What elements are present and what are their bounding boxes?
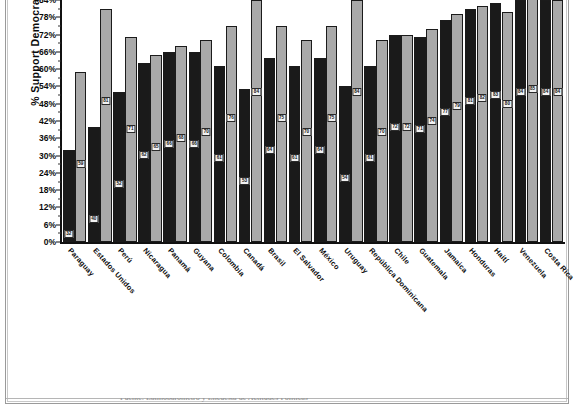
bar-value-label: 32 bbox=[64, 230, 73, 238]
y-minor-tick-mark bbox=[58, 198, 61, 199]
bar-light[interactable] bbox=[100, 9, 112, 242]
bar-group: 5271 bbox=[112, 0, 137, 242]
y-tick-label: 84% bbox=[39, 0, 56, 5]
bar-light[interactable] bbox=[75, 72, 87, 242]
bar-value-label: 84 bbox=[352, 88, 361, 96]
bar-value-label: 84 bbox=[541, 88, 550, 96]
bar-light[interactable] bbox=[276, 26, 288, 242]
bar-light[interactable] bbox=[301, 40, 313, 242]
y-tick-mark bbox=[56, 242, 61, 243]
x-category-label: Costa Rica bbox=[543, 246, 574, 282]
bar-dark[interactable] bbox=[63, 150, 75, 242]
bar-dark[interactable] bbox=[88, 127, 100, 242]
bar-light[interactable] bbox=[125, 37, 137, 242]
bar-value-label: 84 bbox=[516, 88, 525, 96]
bar-light[interactable] bbox=[502, 12, 514, 242]
bar-value-label: 72 bbox=[391, 123, 400, 131]
x-category-label: Uruguay bbox=[342, 246, 370, 275]
y-tick-label: 24% bbox=[39, 168, 56, 178]
bar-value-label: 52 bbox=[114, 180, 123, 188]
bar-value-label: 61 bbox=[290, 154, 299, 162]
y-tick-mark bbox=[56, 86, 61, 87]
bar-group: 3259 bbox=[62, 0, 87, 242]
bar-group: 6668 bbox=[162, 0, 187, 242]
bar-dark[interactable] bbox=[339, 86, 351, 242]
bar-light[interactable] bbox=[351, 0, 363, 242]
bar-value-label: 70 bbox=[377, 128, 386, 136]
y-minor-tick-mark bbox=[58, 25, 61, 26]
bar-value-label: 85 bbox=[528, 85, 537, 93]
bar-light[interactable] bbox=[451, 14, 463, 242]
y-minor-tick-mark bbox=[58, 60, 61, 61]
bar-dark[interactable] bbox=[440, 20, 452, 242]
y-tick-mark bbox=[56, 155, 61, 156]
y-tick-label: 12% bbox=[39, 202, 56, 212]
bar-light[interactable] bbox=[477, 6, 489, 242]
caption-text: Fuente: Latinobarómetro y Encuesta de Ac… bbox=[120, 398, 308, 402]
bar-group: 8485 bbox=[514, 0, 539, 242]
bar-value-label: 84 bbox=[553, 88, 562, 96]
bar-light[interactable] bbox=[527, 0, 539, 242]
bar-value-label: 66 bbox=[190, 140, 199, 148]
y-tick-label: 42% bbox=[39, 116, 56, 126]
y-tick-label: 66% bbox=[39, 47, 56, 57]
y-tick-mark bbox=[56, 190, 61, 191]
bar-group: 8380 bbox=[489, 0, 514, 242]
y-tick-label: 18% bbox=[39, 185, 56, 195]
y-tick-mark bbox=[56, 138, 61, 139]
bar-dark[interactable] bbox=[490, 3, 502, 242]
bar-chart: % Support Democracy 0%6%12%18%24%30%36%4… bbox=[0, 0, 574, 300]
bar-value-label: 62 bbox=[140, 151, 149, 159]
bar-light[interactable] bbox=[552, 0, 564, 242]
bar-value-label: 84 bbox=[252, 88, 261, 96]
bar-group: 6265 bbox=[137, 0, 162, 242]
y-minor-tick-mark bbox=[58, 146, 61, 147]
bar-light[interactable] bbox=[426, 29, 438, 242]
y-tick-label: 30% bbox=[39, 151, 56, 161]
bar-value-label: 53 bbox=[240, 177, 249, 185]
bar-group: 6170 bbox=[288, 0, 313, 242]
y-minor-tick-mark bbox=[58, 77, 61, 78]
bar-dark[interactable] bbox=[239, 89, 251, 242]
bar-dark[interactable] bbox=[414, 37, 426, 242]
bar-dark[interactable] bbox=[389, 35, 401, 242]
bar-group: 8484 bbox=[539, 0, 564, 242]
y-tick-mark bbox=[56, 121, 61, 122]
x-category-label: Perú bbox=[116, 246, 134, 265]
bar-value-label: 81 bbox=[466, 97, 475, 105]
y-tick-label: 60% bbox=[39, 64, 56, 74]
bar-value-label: 81 bbox=[101, 97, 110, 105]
y-tick-mark bbox=[56, 224, 61, 225]
bar-group: 5384 bbox=[238, 0, 263, 242]
x-axis-line bbox=[60, 242, 565, 244]
bar-dark[interactable] bbox=[113, 92, 125, 242]
y-tick-label: 54% bbox=[39, 81, 56, 91]
y-minor-tick-mark bbox=[58, 112, 61, 113]
bar-value-label: 83 bbox=[491, 91, 500, 99]
bar-value-label: 64 bbox=[315, 146, 324, 154]
y-tick-label: 78% bbox=[39, 12, 56, 22]
bar-value-label: 74 bbox=[428, 117, 437, 125]
y-minor-tick-mark bbox=[58, 95, 61, 96]
bar-light[interactable] bbox=[175, 46, 187, 242]
y-tick-mark bbox=[56, 172, 61, 173]
bar-dark[interactable] bbox=[540, 0, 552, 242]
bar-light[interactable] bbox=[376, 40, 388, 242]
bar-light[interactable] bbox=[326, 26, 338, 242]
bar-value-label: 80 bbox=[503, 100, 512, 108]
bar-value-label: 75 bbox=[327, 114, 336, 122]
y-tick-mark bbox=[56, 17, 61, 18]
bar-value-label: 75 bbox=[277, 114, 286, 122]
y-tick-label: 48% bbox=[39, 99, 56, 109]
y-minor-tick-mark bbox=[58, 233, 61, 234]
y-minor-tick-mark bbox=[58, 181, 61, 182]
bar-value-label: 61 bbox=[215, 154, 224, 162]
bar-dark[interactable] bbox=[515, 0, 527, 242]
bar-light[interactable] bbox=[251, 0, 263, 242]
bar-light[interactable] bbox=[401, 35, 413, 242]
y-minor-tick-mark bbox=[58, 43, 61, 44]
bar-dark[interactable] bbox=[465, 9, 477, 242]
bar-light[interactable] bbox=[200, 40, 212, 242]
bar-light[interactable] bbox=[226, 26, 238, 242]
bar-group: 8182 bbox=[464, 0, 489, 242]
